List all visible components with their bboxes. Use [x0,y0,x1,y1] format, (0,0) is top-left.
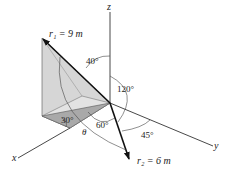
r2-label: r₂ = 6 m [137,156,171,166]
angle-60-label: 60° [96,121,109,130]
r1-label: r₁ = 9 m [49,29,83,39]
angle-40-label: 40° [86,57,99,66]
r2-vector [110,103,129,159]
diagram-drawing [0,0,230,179]
y-axis-label: y [214,141,218,151]
x-axis [18,128,70,158]
angle-30-label: 30° [61,116,74,125]
angle-45-label: 45° [141,131,154,140]
vector-diagram: z y x r₁ = 9 m r₂ = 6 m 40° 120° 45° 60°… [0,0,230,179]
x-axis-label: x [12,153,16,163]
theta-label: θ [82,128,86,137]
arc-120 [110,76,127,122]
z-axis-label: z [107,2,111,12]
angle-120-label: 120° [117,85,134,94]
